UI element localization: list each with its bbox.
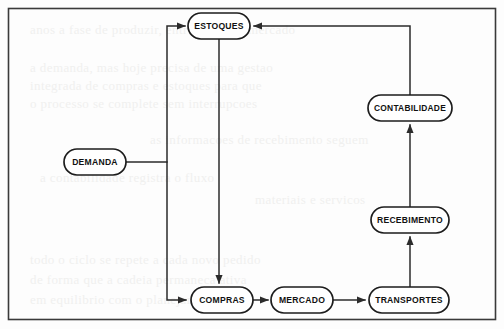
- node-contabilidade-label: CONTABILIDADE: [374, 103, 446, 113]
- node-transportes[interactable]: TRANSPORTES: [369, 287, 449, 313]
- edges-layer: [126, 26, 410, 300]
- node-recebimento-label: RECEBIMENTO: [377, 215, 443, 225]
- node-transportes-label: TRANSPORTES: [375, 295, 443, 305]
- node-mercado-label: MERCADO: [279, 295, 325, 305]
- edge-contabilidade-estoques: [254, 26, 410, 95]
- node-estoques[interactable]: ESTOQUES: [188, 13, 250, 39]
- supply-flow-diagram: ESTOQUES DEMANDA CONTABILIDADE RECEBIMEN…: [0, 0, 504, 329]
- node-demanda[interactable]: DEMANDA: [64, 149, 126, 175]
- node-contabilidade[interactable]: CONTABILIDADE: [368, 95, 452, 121]
- edge-demanda-compras: [126, 162, 186, 300]
- node-demanda-label: DEMANDA: [72, 157, 118, 167]
- diagram-page: anos a fase de produzir, entregando ao m…: [0, 0, 504, 329]
- nodes-layer: ESTOQUES DEMANDA CONTABILIDADE RECEBIMEN…: [64, 13, 452, 313]
- node-compras-label: COMPRAS: [199, 295, 245, 305]
- node-recebimento[interactable]: RECEBIMENTO: [371, 207, 449, 233]
- edge-demanda-estoques: [167, 26, 185, 162]
- node-estoques-label: ESTOQUES: [194, 21, 244, 31]
- node-mercado[interactable]: MERCADO: [271, 287, 333, 313]
- node-compras[interactable]: COMPRAS: [191, 287, 253, 313]
